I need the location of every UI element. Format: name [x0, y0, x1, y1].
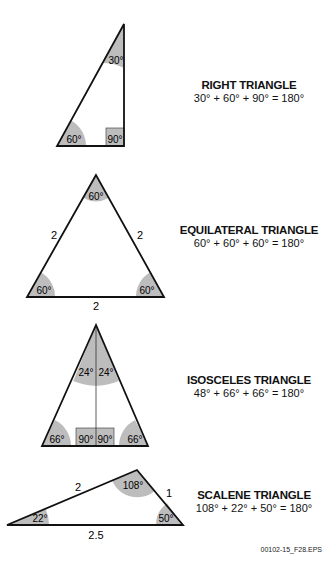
equilateral-side-bottom: 2	[93, 300, 99, 312]
scalene-angle-top: 108°	[123, 480, 144, 491]
right-triangle-label: RIGHT TRIANGLE 30° + 60° + 90° = 180°	[164, 79, 334, 104]
equilateral-triangle-title: EQUILATERAL TRIANGLE	[164, 224, 334, 236]
right-triangle: 30° 60° 90°	[57, 24, 124, 146]
right-angle-right: 90°	[107, 134, 122, 145]
right-triangle-equation: 30° + 60° + 90° = 180°	[164, 92, 334, 104]
isosceles-triangle-title: ISOSCELES TRIANGLE	[164, 374, 334, 386]
equilateral-angle-right: 60°	[139, 285, 154, 296]
isosceles-angle-right: 66°	[127, 434, 142, 445]
right-angle-top: 30°	[108, 55, 123, 66]
scalene-angle-right: 50°	[158, 513, 173, 524]
scalene-triangle-label: SCALENE TRIANGLE 108° + 22° + 50° = 180°	[184, 489, 324, 514]
scalene-side-bottom: 2.5	[88, 529, 103, 541]
isosceles-triangle-label: ISOSCELES TRIANGLE 48° + 66° + 66° = 180…	[164, 374, 334, 399]
equilateral-triangle-label: EQUILATERAL TRIANGLE 60° + 60° + 60° = 1…	[164, 224, 334, 249]
equilateral-angle-top: 60°	[88, 191, 103, 202]
isosceles-angle-mid-right: 90°	[97, 434, 112, 445]
right-triangle-title: RIGHT TRIANGLE	[164, 79, 334, 91]
scalene-triangle-title: SCALENE TRIANGLE	[184, 489, 324, 501]
equilateral-triangle: 60° 60° 60° 2 2 2	[27, 175, 164, 312]
isosceles-angle-top-left: 24°	[78, 367, 93, 378]
isosceles-angle-left: 66°	[49, 434, 64, 445]
scalene-side-top-left: 2	[75, 481, 81, 493]
equilateral-angle-left: 60°	[36, 285, 51, 296]
isosceles-angle-mid-left: 90°	[78, 434, 93, 445]
figure-code: 00102-15_F28.EPS	[261, 546, 323, 553]
isosceles-triangle-equation: 48° + 66° + 66° = 180°	[164, 387, 334, 399]
equilateral-triangle-equation: 60° + 60° + 60° = 180°	[164, 237, 334, 249]
scalene-angle-left: 22°	[32, 513, 47, 524]
right-angle-left: 60°	[66, 134, 81, 145]
isosceles-angle-top-right: 24°	[98, 367, 113, 378]
scalene-triangle: 108° 22° 50° 2 1 2.5	[7, 470, 183, 541]
equilateral-side-right: 2	[137, 229, 143, 241]
scalene-triangle-equation: 108° + 22° + 50° = 180°	[184, 502, 324, 514]
isosceles-triangle: 24° 24° 66° 66° 90° 90°	[42, 325, 148, 446]
equilateral-side-left: 2	[51, 229, 57, 241]
scalene-side-top-right: 1	[166, 487, 172, 499]
